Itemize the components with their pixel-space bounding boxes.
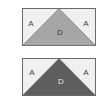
block-bottom-label-d: D — [58, 77, 64, 86]
block-top: A A D — [23, 9, 96, 46]
block-bottom: A A D — [23, 59, 96, 96]
quilt-block-diagram: A A D A A D — [0, 0, 98, 107]
block-top-label-a-right: A — [83, 19, 89, 28]
block-bottom-label-a-right: A — [83, 68, 89, 77]
block-bottom-label-a-left: A — [29, 68, 35, 77]
block-top-label-d: D — [57, 28, 63, 37]
block-top-label-a-left: A — [28, 19, 34, 28]
